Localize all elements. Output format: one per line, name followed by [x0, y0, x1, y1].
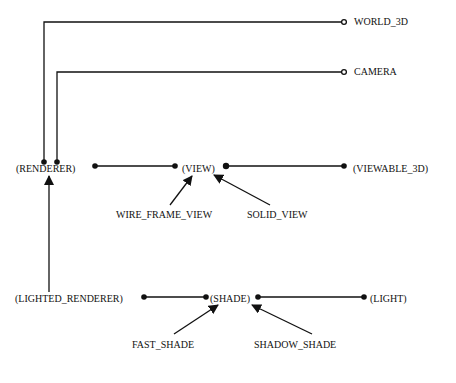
node-fast-shade: FAST_SHADE [132, 339, 194, 350]
node-viewable-3d: (VIEWABLE_3D) [353, 163, 428, 175]
edge-renderer-camera [54, 70, 346, 165]
node-light: (LIGHT) [370, 293, 407, 305]
arrow-solid-to-view [214, 175, 270, 205]
node-wire-frame-view: WIRE_FRAME_VIEW [116, 209, 213, 220]
edge-lighted-shade [141, 294, 209, 300]
edge-renderer-view [92, 163, 178, 169]
node-lighted-renderer: (LIGHTED_RENDERER) [15, 293, 123, 305]
class-diagram: WORLD_3D CAMERA (RENDERER) (VIEW) (VIEWA… [0, 0, 456, 383]
node-solid-view: SOLID_VIEW [247, 209, 308, 220]
arrow-fast-to-shade [174, 305, 218, 334]
node-shadow-shade: SHADOW_SHADE [254, 339, 336, 350]
node-shade: (SHADE) [210, 293, 250, 305]
arrow-shadow-to-shade [252, 305, 312, 334]
edge-renderer-world3d [41, 20, 346, 165]
node-view: (VIEW) [182, 163, 215, 175]
edge-view-viewable3d [223, 163, 347, 169]
node-camera: CAMERA [354, 66, 398, 77]
node-renderer: (RENDERER) [16, 163, 75, 175]
edge-shade-light [255, 294, 367, 300]
node-world-3d: WORLD_3D [354, 16, 408, 27]
arrow-wireframe-to-view [170, 176, 192, 205]
